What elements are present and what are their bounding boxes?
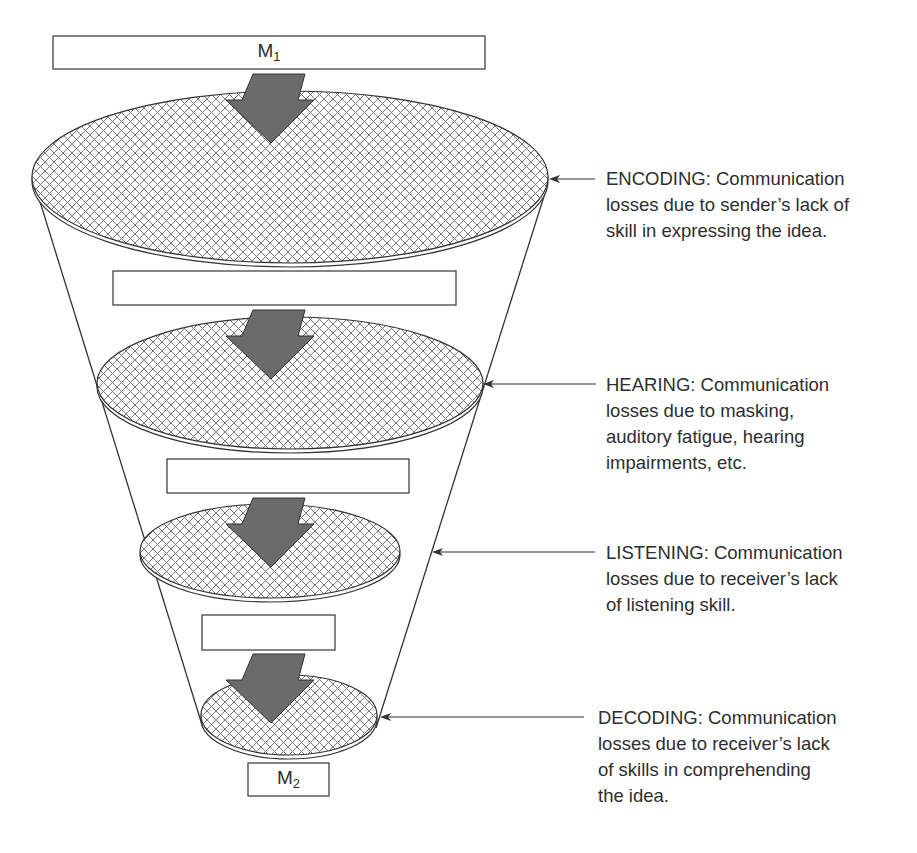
listening-annotation: LISTENING: Communication losses due to r… xyxy=(606,540,842,618)
stage-box-4 xyxy=(202,615,335,650)
listening-pointer-arrow-icon xyxy=(432,548,595,556)
stage-box-3 xyxy=(167,459,409,493)
encoding-pointer-arrow-icon xyxy=(549,175,595,183)
decoding-pointer-arrow-icon xyxy=(380,713,584,721)
encoding-annotation: ENCODING: Communication losses due to se… xyxy=(606,166,849,244)
decoding-annotation: DECODING: Communication losses due to re… xyxy=(598,705,837,809)
hearing-annotation: HEARING: Communication losses due to mas… xyxy=(606,372,829,476)
hearing-pointer-arrow-icon xyxy=(483,380,596,388)
output-message-label: M2 xyxy=(248,767,329,791)
stage-box-2 xyxy=(113,271,456,305)
input-message-label: M1 xyxy=(53,40,485,64)
